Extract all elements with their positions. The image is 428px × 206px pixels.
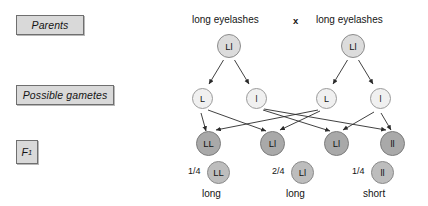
f1-ratio-genotype-1: LL	[213, 167, 224, 178]
f1-phenotype-label-2: long	[286, 188, 305, 199]
f1-offspring-genotype-1: LL	[203, 138, 214, 149]
parent2-genotype-circle: Ll	[341, 34, 365, 58]
f1-offspring-circle-2: Ll	[260, 131, 285, 156]
gamete-circle-4: l	[370, 88, 391, 109]
arrow-parent2-to-gamete-l	[359, 60, 374, 84]
f1-offspring-genotype-3: Ll	[333, 138, 340, 149]
f1-phenotype-label-1: long	[202, 188, 221, 199]
stage-label-f1: F1	[16, 140, 38, 164]
genetic-cross-diagram: Parents Possible gametes F1	[0, 0, 428, 206]
arrow-gameteL2-to-LL	[216, 110, 318, 130]
f1-ratio-circle-3: ll	[371, 161, 394, 184]
parent2-genotype-text: Ll	[349, 41, 356, 52]
f1-ratio-label-2: 2/4	[272, 166, 285, 176]
gamete-allele-4: l	[380, 94, 382, 104]
arrow-gameteL1-to-Ll-b	[208, 110, 266, 131]
parent2-phenotype-label: long eyelashes	[316, 14, 383, 25]
stage-label-parents: Parents	[16, 15, 84, 35]
parent1-genotype-circle: Ll	[217, 34, 241, 58]
parent1-phenotype-label: long eyelashes	[192, 14, 259, 25]
arrow-parent1-to-gamete-L	[209, 60, 224, 84]
f1-ratio-genotype-3: ll	[380, 167, 384, 178]
arrow-gametel2-to-ll	[381, 113, 391, 130]
gamete-allele-2: l	[256, 94, 258, 104]
f1-phenotype-label-3: short	[363, 188, 385, 199]
arrow-gametel1-to-ll	[264, 109, 386, 130]
f1-ratio-label-3: 1/4	[352, 166, 365, 176]
stage-label-f1-subscript: 1	[28, 148, 32, 157]
cross-symbol: x	[293, 15, 298, 26]
arrow-gametel2-to-Ll-c	[343, 112, 374, 130]
arrow-gametel1-to-Ll-c	[263, 110, 330, 131]
gamete-circle-1: L	[192, 88, 213, 109]
stage-label-possible-gametes: Possible gametes	[16, 85, 114, 105]
f1-ratio-label-1: 1/4	[188, 166, 201, 176]
parent1-genotype-text: Ll	[225, 41, 232, 52]
stage-label-possible-gametes-text: Possible gametes	[23, 89, 107, 101]
f1-offspring-genotype-4: ll	[390, 138, 394, 149]
f1-offspring-circle-3: Ll	[324, 131, 349, 156]
f1-offspring-circle-1: LL	[196, 131, 221, 156]
arrow-gameteL2-to-Ll-b	[280, 111, 320, 130]
gamete-circle-3: L	[316, 88, 337, 109]
f1-offspring-circle-4: ll	[380, 131, 405, 156]
f1-ratio-circle-1: LL	[207, 161, 230, 184]
f1-ratio-genotype-2: Ll	[299, 167, 306, 178]
arrow-parent2-to-gamete-L	[333, 60, 348, 84]
gamete-circle-2: l	[246, 88, 267, 109]
arrow-parent1-to-gamete-l	[235, 60, 250, 84]
gamete-allele-1: L	[200, 94, 205, 104]
arrow-gameteL1-to-LL	[201, 113, 206, 131]
gamete-allele-3: L	[324, 94, 329, 104]
f1-offspring-genotype-2: Ll	[269, 138, 276, 149]
f1-ratio-circle-2: Ll	[291, 161, 314, 184]
stage-label-parents-text: Parents	[32, 19, 69, 31]
